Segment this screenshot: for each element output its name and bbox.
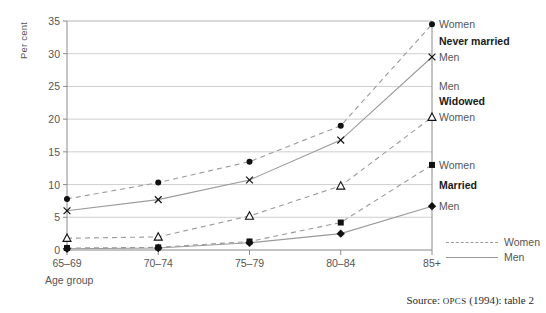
- legend-line-swatch: [446, 242, 498, 243]
- source-suffix: (1994): table 2: [466, 294, 534, 306]
- circle-marker-icon: [247, 159, 253, 165]
- series-marker: [246, 212, 254, 219]
- series-line: [67, 165, 432, 248]
- diamond-marker-icon: [428, 202, 436, 210]
- circle-marker-icon: [429, 21, 435, 27]
- y-tick-label: 25: [34, 80, 60, 92]
- series-end-label: Men: [439, 51, 459, 63]
- series-marker: [337, 137, 344, 144]
- triangle-marker-icon: [337, 182, 345, 189]
- circle-marker-icon: [155, 180, 161, 186]
- legend-item: Men: [446, 251, 524, 263]
- x-tick-label: 80–84: [326, 257, 355, 269]
- legend-label: Men: [504, 251, 524, 263]
- series-group-label: Widowed: [439, 95, 485, 107]
- series-marker: [429, 162, 435, 168]
- source-note: Source: OPCS (1994): table 2: [406, 294, 534, 306]
- series-marker: [337, 229, 345, 237]
- series-marker: [429, 21, 435, 27]
- series-group-label: Never married: [439, 35, 510, 47]
- series-marker: [338, 123, 344, 129]
- x-tick-label: 75–79: [235, 257, 264, 269]
- series-marker: [428, 113, 436, 120]
- series-marker: [64, 196, 70, 202]
- y-tick-label: 10: [34, 179, 60, 191]
- series-end-label: Men: [439, 200, 459, 212]
- circle-marker-icon: [64, 196, 70, 202]
- triangle-marker-icon: [246, 212, 254, 219]
- series-marker: [338, 220, 344, 226]
- x-axis-title: Age group: [45, 274, 93, 286]
- series-line: [67, 117, 432, 238]
- source-organisation: OPCS: [443, 296, 467, 306]
- y-tick-label: 20: [34, 113, 60, 125]
- series-end-label: Women: [439, 111, 475, 123]
- series-marker: [337, 182, 345, 189]
- series-end-label: Women: [439, 159, 475, 171]
- legend-item: Women: [446, 236, 540, 248]
- chart-plot-area: [0, 0, 546, 313]
- legend-label: Women: [504, 236, 540, 248]
- series-group-label: Married: [439, 179, 477, 191]
- diamond-marker-icon: [337, 229, 345, 237]
- series-end-label: Women: [439, 18, 475, 30]
- x-tick-label: 70–74: [144, 257, 173, 269]
- square-marker-icon: [338, 220, 344, 226]
- y-tick-label: 0: [34, 244, 60, 256]
- chart-figure: Per cent 05101520253035 65–6970–7475–798…: [0, 0, 546, 313]
- series-marker: [428, 202, 436, 210]
- series-line: [67, 57, 432, 211]
- y-tick-label: 35: [34, 15, 60, 27]
- y-tick-label: 15: [34, 146, 60, 158]
- y-tick-label: 5: [34, 211, 60, 223]
- y-tick-label: 30: [34, 48, 60, 60]
- legend-line-swatch: [446, 257, 498, 258]
- x-tick-label: 65–69: [52, 257, 81, 269]
- source-prefix: Source:: [406, 294, 442, 306]
- square-marker-icon: [429, 162, 435, 168]
- series-marker: [155, 180, 161, 186]
- x-tick-label: 85+: [423, 257, 441, 269]
- series-marker: [247, 159, 253, 165]
- series-end-label: Men: [439, 80, 459, 92]
- circle-marker-icon: [338, 123, 344, 129]
- series-line: [67, 24, 432, 199]
- triangle-marker-icon: [428, 113, 436, 120]
